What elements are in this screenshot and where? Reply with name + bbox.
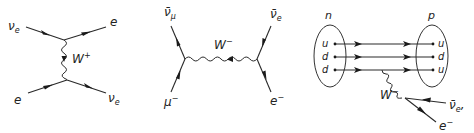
label-outgoing-electron: e	[110, 15, 117, 29]
label-incoming-neutrino: νe	[8, 19, 20, 35]
arrow-icon	[227, 56, 233, 62]
quark-dot	[432, 56, 435, 59]
label-neutron: n	[325, 9, 332, 22]
quark-dot	[334, 69, 337, 72]
label-incoming-electron: e	[14, 93, 21, 107]
boson-line-w-minus	[185, 57, 257, 61]
label-outgoing-neutrino: νe	[108, 91, 120, 107]
quark-label: u	[322, 38, 328, 49]
arrow-icon	[81, 32, 91, 37]
label-w-plus: W+	[72, 51, 91, 66]
diagram-neutrino-electron-scattering: νe e W+ e νe	[8, 15, 120, 107]
label-w-minus: W−	[380, 87, 399, 102]
label-w-minus: W−	[214, 37, 233, 52]
quark-label: d	[322, 51, 329, 62]
label-electron: e−	[270, 93, 284, 108]
quark-dot	[334, 43, 337, 46]
arrow-icon	[84, 83, 93, 89]
label-muon: μ−	[163, 94, 178, 109]
quark-label: d	[322, 64, 329, 75]
arrow-icon	[176, 37, 181, 47]
label-muon-antineutrino: ν̄μ	[164, 5, 176, 21]
neutron-ellipse	[314, 25, 346, 87]
arrow-icon	[262, 38, 266, 47]
quark-label: d	[438, 51, 445, 62]
quark-label: u	[438, 64, 444, 75]
arrow-icon	[43, 85, 53, 90]
arrow-icon	[262, 71, 267, 81]
arrow-icon	[417, 107, 426, 115]
label-electron-antineutrino: ν̄e	[270, 7, 282, 23]
label-electron-antineutrino: ν̄e,	[449, 98, 464, 114]
quark-dot	[334, 56, 337, 59]
diagram-muon-decay: ν̄μ μ− W− ν̄e e−	[163, 5, 284, 109]
quark-label: u	[438, 38, 444, 49]
arrow-icon	[176, 70, 181, 80]
feynman-diagrams: νe e W+ e νe ν̄μ μ− W− ν̄e e− n p	[0, 0, 474, 133]
label-proton: p	[427, 9, 435, 22]
quark-dot	[432, 43, 435, 46]
quark-dot	[432, 69, 435, 72]
diagram-neutron-beta-decay: n p u d d u d u W−	[314, 9, 464, 133]
arrow-icon	[422, 98, 431, 103]
label-electron: e−	[439, 118, 453, 133]
